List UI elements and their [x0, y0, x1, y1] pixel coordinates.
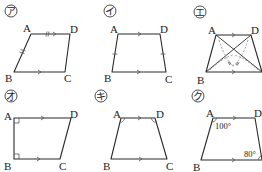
- figure-label: イ: [105, 6, 115, 17]
- figure-label-circle: イ: [104, 5, 116, 17]
- right-angle-icon: [14, 118, 19, 123]
- vertex-label-a: A: [4, 110, 12, 122]
- vertex-label-c: C: [59, 160, 66, 172]
- vertex-label-b: B: [197, 74, 204, 86]
- figure-ku: ク 100° 80° A D B: [192, 90, 262, 172]
- figure-label-circle: ア: [5, 5, 17, 17]
- quadrilateral-abcd: [14, 118, 71, 159]
- vertex-label-d: D: [251, 24, 259, 36]
- vertex-label-b: B: [104, 72, 111, 84]
- angle-c-value: 80°: [244, 149, 256, 159]
- vertex-label-d: D: [156, 108, 164, 120]
- figure-a: ア A D B C: [5, 5, 78, 84]
- figure-label-circle: オ: [5, 90, 17, 102]
- figure-label: オ: [6, 91, 16, 102]
- trapezoid-figures: ア A D B C イ A D B C エ: [0, 0, 262, 172]
- diagonal-bd: [206, 35, 251, 72]
- angle-a-value: 100°: [215, 121, 231, 131]
- diagonal-ac: [216, 35, 262, 72]
- quadrilateral-abcd: [111, 118, 167, 159]
- vertex-label-b: B: [193, 161, 200, 172]
- equal-length-tick-icon: [228, 62, 231, 66]
- vertex-label-c: C: [166, 160, 173, 172]
- figure-label-circle: エ: [194, 6, 206, 18]
- figure-label: ア: [6, 6, 16, 17]
- figure-ki: キ A D B C: [95, 90, 173, 172]
- right-angle-icon: [14, 154, 19, 159]
- equal-length-tick-icon: [20, 50, 26, 54]
- vertex-label-d: D: [70, 23, 78, 35]
- vertex-label-b: B: [5, 72, 12, 84]
- quadrilateral-abcd: [112, 34, 166, 72]
- quadrilateral-abcd: [206, 35, 262, 72]
- figure-i: イ A D B C: [104, 5, 172, 85]
- vertex-label-d: D: [254, 107, 262, 119]
- vertex-label-c: C: [64, 72, 71, 84]
- vertex-label-a: A: [110, 23, 118, 35]
- figure-e: エ A D B: [194, 6, 262, 86]
- figure-label-circle: ク: [192, 90, 204, 102]
- figure-label: エ: [195, 7, 205, 18]
- figure-label: ク: [193, 91, 203, 102]
- vertex-label-d: D: [70, 108, 78, 120]
- vertex-label-c: C: [165, 73, 172, 85]
- vertex-label-b: B: [103, 160, 110, 172]
- vertex-label-a: A: [113, 108, 121, 120]
- figure-label-circle: キ: [95, 90, 107, 102]
- figure-o: オ A D B C: [4, 90, 78, 172]
- angle-arc-icon: [258, 156, 261, 160]
- vertex-label-a: A: [208, 24, 216, 36]
- vertex-label-a: A: [23, 22, 31, 34]
- vertex-label-d: D: [160, 23, 168, 35]
- vertex-label-b: B: [4, 160, 11, 172]
- figure-label: キ: [96, 91, 106, 102]
- vertex-label-a: A: [206, 107, 214, 119]
